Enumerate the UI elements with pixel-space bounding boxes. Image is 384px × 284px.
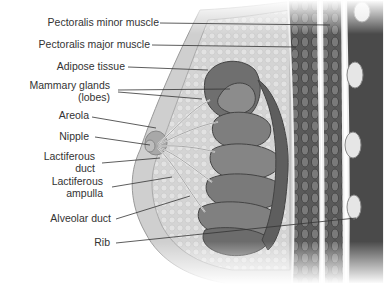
- label-mammary-lobes: (lobes): [78, 92, 110, 103]
- label-lactiferous-ampulla-1: Lactiferous: [52, 176, 103, 187]
- label-lactiferous-duct-2: duct: [75, 163, 95, 174]
- label-pectoralis-minor: Pectoralis minor muscle: [48, 17, 159, 28]
- label-alveolar-duct: Alveolar duct: [50, 213, 111, 224]
- label-pectoralis-major: Pectoralis major muscle: [39, 39, 150, 50]
- label-mammary-glands: Mammary glands: [29, 80, 110, 91]
- breast-anatomy-diagram: Pectoralis minor muscle Pectoralis major…: [0, 0, 384, 284]
- label-lactiferous-ampulla-2: ampulla: [66, 188, 103, 199]
- label-areola: Areola: [59, 110, 89, 121]
- label-nipple: Nipple: [59, 131, 89, 142]
- label-lactiferous-duct-1: Lactiferous: [44, 151, 95, 162]
- label-adipose-tissue: Adipose tissue: [57, 61, 125, 72]
- label-rib: Rib: [94, 237, 110, 248]
